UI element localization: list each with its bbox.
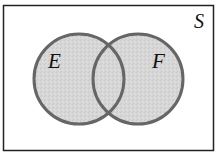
union-shading <box>34 34 183 124</box>
venn-diagram: E F S <box>0 0 216 155</box>
set-f-label: F <box>151 49 165 73</box>
universe-label: S <box>194 10 204 32</box>
set-e-label: E <box>47 49 61 73</box>
